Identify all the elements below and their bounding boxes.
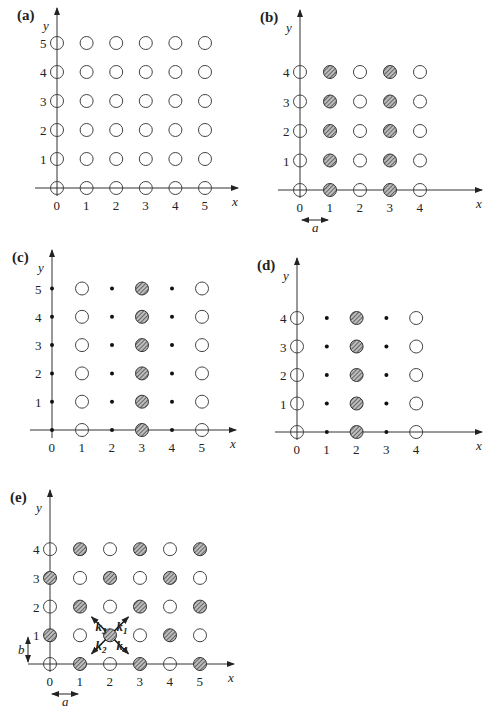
open-site-icon [76, 367, 89, 380]
hatched-site-icon [324, 66, 337, 79]
hatched-site-icon [384, 154, 397, 167]
open-site-icon [80, 95, 93, 108]
panel-label: (d) [257, 257, 275, 274]
panel-a: (a)xy01234512345 [17, 7, 238, 213]
y-tick-label: 4 [33, 542, 40, 557]
hatched-site-icon [164, 629, 177, 642]
y-tick-label: 2 [35, 366, 42, 381]
open-site-icon [139, 66, 152, 79]
hatched-site-icon [350, 397, 363, 410]
y-tick-label: 1 [35, 395, 42, 410]
open-site-icon [134, 571, 147, 584]
dot-site-icon [50, 428, 54, 432]
x-tick-label: 0 [49, 440, 56, 455]
dot-site-icon [110, 343, 114, 347]
open-site-icon [80, 66, 93, 79]
dot-site-icon [325, 373, 329, 377]
hatched-site-icon [324, 125, 337, 138]
hatched-site-icon [74, 543, 87, 556]
dot-site-icon [170, 315, 174, 319]
dot-site-icon [325, 316, 329, 320]
open-site-icon [410, 340, 423, 353]
open-site-icon [414, 95, 427, 108]
open-site-icon [169, 95, 182, 108]
dot-site-icon [325, 430, 329, 434]
hatched-site-icon [384, 184, 397, 197]
y-tick-label: 1 [280, 397, 287, 412]
hatched-site-icon [136, 339, 149, 352]
hatched-site-icon [136, 367, 149, 380]
x-tick-label: 3 [139, 440, 146, 455]
dot-site-icon [50, 287, 54, 291]
dot-site-icon [384, 430, 388, 434]
open-site-icon [354, 125, 367, 138]
x-tick-label: 5 [199, 440, 206, 455]
open-site-icon [134, 629, 147, 642]
x-tick-label: 0 [297, 200, 304, 215]
open-site-icon [169, 124, 182, 137]
x-tick-label: 3 [387, 200, 394, 215]
y-tick-label: 3 [35, 338, 42, 353]
hatched-site-icon [74, 600, 87, 613]
open-site-icon [196, 367, 209, 380]
x-tick-label: 2 [357, 200, 364, 215]
dot-site-icon [325, 402, 329, 406]
open-site-icon [76, 339, 89, 352]
open-site-icon [139, 153, 152, 166]
open-site-icon [76, 395, 89, 408]
x-tick-label: 2 [107, 674, 114, 689]
open-site-icon [410, 397, 423, 410]
open-site-icon [354, 66, 367, 79]
open-site-icon [169, 37, 182, 50]
open-site-icon [110, 37, 123, 50]
y-tick-label: 1 [283, 154, 290, 169]
x-tick-label: 5 [197, 674, 204, 689]
y-tick-label: 3 [283, 95, 290, 110]
open-site-icon [410, 369, 423, 382]
open-site-icon [80, 124, 93, 137]
hatched-site-icon [194, 543, 207, 556]
hatched-site-icon [74, 658, 87, 671]
panel-label: (a) [17, 7, 35, 24]
panel-label: (c) [12, 249, 29, 266]
y-axis-label: y [36, 260, 44, 275]
x-tick-label: 1 [79, 440, 86, 455]
hatched-site-icon [104, 571, 117, 584]
lattice-figure: (a)xy01234512345(b)xy012341234a(c)xy0123… [0, 0, 499, 715]
y-tick-label: 3 [40, 94, 47, 109]
x-tick-label: 2 [109, 440, 116, 455]
hatched-site-icon [44, 629, 57, 642]
open-site-icon [354, 95, 367, 108]
y-tick-label: 1 [40, 152, 47, 167]
y-tick-label: 4 [35, 310, 42, 325]
wavevector-k3-label: k3 [96, 619, 108, 636]
panel-b: (b)xy012341234a [260, 9, 482, 235]
wavevector-k4-label: k4 [116, 638, 128, 655]
x-axis-label: x [229, 436, 236, 451]
panel-d: (d)xy012341234 [257, 257, 482, 457]
dot-site-icon [50, 315, 54, 319]
dot-site-icon [110, 371, 114, 375]
y-axis-label: y [34, 500, 42, 515]
open-site-icon [194, 571, 207, 584]
hatched-site-icon [136, 282, 149, 295]
y-tick-label: 3 [280, 340, 287, 355]
open-site-icon [110, 95, 123, 108]
x-axis-label: x [227, 670, 234, 685]
open-site-icon [104, 543, 117, 556]
open-site-icon [110, 153, 123, 166]
dot-site-icon [384, 345, 388, 349]
hatched-site-icon [350, 426, 363, 439]
x-tick-label: 1 [323, 442, 330, 457]
panel-e: (e)xy0123451234abk1k2k3k4 [10, 489, 234, 709]
dot-site-icon [170, 343, 174, 347]
x-tick-label: 1 [77, 674, 84, 689]
open-site-icon [196, 395, 209, 408]
open-site-icon [74, 629, 87, 642]
x-tick-label: 4 [413, 442, 420, 457]
spacing-label-a: a [62, 694, 69, 709]
hatched-site-icon [136, 310, 149, 323]
open-site-icon [199, 66, 212, 79]
y-tick-label: 5 [35, 282, 42, 297]
spacing-label-a: a [312, 220, 319, 235]
